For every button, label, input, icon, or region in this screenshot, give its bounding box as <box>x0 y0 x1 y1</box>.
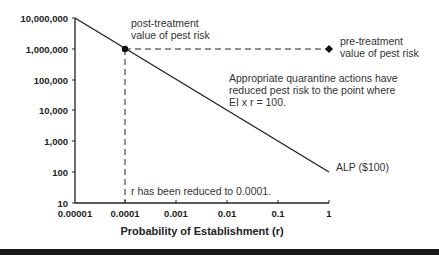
x-tick-label: 0.0001 <box>110 208 140 219</box>
post-treatment-point <box>122 46 128 52</box>
post-treatment-label: post-treatment <box>131 17 199 29</box>
quarantine-note: Appropriate quarantine actions have <box>229 72 398 84</box>
y-tick-label: 10 <box>57 198 68 209</box>
alp-label: ALP ($100) <box>336 161 389 173</box>
quarantine-note: EI x r = 100. <box>229 96 286 108</box>
pre-treatment-label: value of pest risk <box>340 47 420 59</box>
chart-canvas: 10,000,000 1,000,000 100,000 10,000 1,00… <box>0 0 439 255</box>
y-tick-label: 10,000 <box>39 105 68 116</box>
pre-treatment-point <box>325 45 333 53</box>
post-treatment-label: value of pest risk <box>131 29 211 41</box>
x-tick-label: 1 <box>326 208 332 219</box>
y-tick-label: 1,000,000 <box>26 44 68 55</box>
y-tick-label: 100 <box>52 167 68 178</box>
y-tick-label: 1,000 <box>44 136 68 147</box>
pre-treatment-label: pre-treatment <box>340 35 403 47</box>
x-tick-label: 0.1 <box>271 208 285 219</box>
quarantine-note: reduced pest risk to the point where <box>229 84 396 96</box>
x-tick-label: 0.00001 <box>58 208 93 219</box>
x-axis-title: Probability of Establishment (r) <box>120 225 284 237</box>
x-tick-label: 0.001 <box>164 208 188 219</box>
y-tick-label: 10,000,000 <box>20 13 68 24</box>
r-reduction-note: r has been reduced to 0.0001. <box>131 185 271 197</box>
bottom-rule <box>0 249 439 255</box>
y-tick-label: 100,000 <box>34 75 68 86</box>
x-tick-label: 0.01 <box>218 208 237 219</box>
